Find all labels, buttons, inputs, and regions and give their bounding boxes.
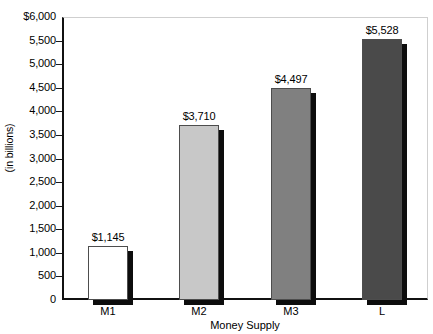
bar-value-label: $3,710: [183, 110, 216, 122]
y-tick-label: 3,000: [4, 153, 56, 164]
y-tick-label: 1,500: [4, 223, 56, 234]
y-tick-label: 0: [4, 294, 56, 305]
bar-fill: [362, 39, 402, 300]
bar-value-label: $1,145: [92, 231, 125, 243]
x-category-label-M3: M3: [283, 305, 298, 317]
y-tick-label: 2,500: [4, 176, 56, 187]
y-tick-mark: [56, 206, 62, 207]
y-tick-mark: [56, 135, 62, 136]
y-axis-tick-labels: $6,0005,5005,0004,5004,0003,5003,0002,50…: [0, 0, 56, 334]
x-category-label-M1: M1: [100, 305, 115, 317]
y-tick-label: 500: [4, 270, 56, 281]
money-supply-bar-chart: (in billions) $6,0005,5005,0004,5004,000…: [0, 0, 433, 334]
y-tick-mark: [56, 229, 62, 230]
y-tick-label: 4,500: [4, 82, 56, 93]
y-tick-mark: [56, 182, 62, 183]
bar-value-label: $4,497: [275, 73, 308, 85]
bar-fill: [271, 88, 311, 300]
y-tick-mark: [56, 159, 62, 160]
y-tick-label: 4,000: [4, 105, 56, 116]
bar-M3: $4,497: [271, 88, 311, 300]
bar-fill: [88, 246, 128, 300]
bar-M1: $1,145: [88, 246, 128, 300]
bar-fill: [179, 125, 219, 300]
y-tick-label: 5,000: [4, 58, 56, 69]
bar-M2: $3,710: [179, 125, 219, 300]
y-tick-mark: [56, 88, 62, 89]
bar-L: $5,528: [362, 39, 402, 300]
y-tick-mark: [56, 111, 62, 112]
y-tick-mark: [56, 253, 62, 254]
bar-value-label: $5,528: [366, 24, 399, 36]
y-tick-mark: [56, 276, 62, 277]
y-tick-label: 1,000: [4, 247, 56, 258]
y-tick-mark: [56, 41, 62, 42]
y-tick-label: 2,000: [4, 200, 56, 211]
x-category-label-L: L: [379, 305, 385, 317]
y-tick-label: $6,000: [4, 11, 56, 22]
x-category-label-M2: M2: [191, 305, 206, 317]
y-tick-mark: [56, 64, 62, 65]
x-axis-title: Money Supply: [62, 319, 428, 331]
y-tick-label: 3,500: [4, 129, 56, 140]
chart-title-cropped: [60, 0, 360, 3]
y-tick-label: 5,500: [4, 35, 56, 46]
